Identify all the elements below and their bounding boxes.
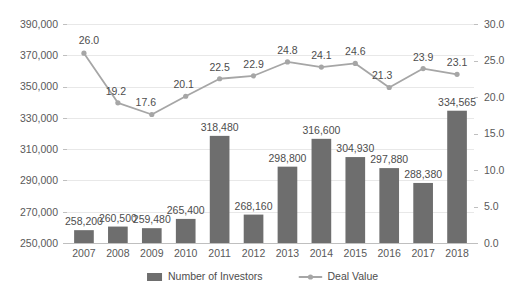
line-value-label: 26.0 [79,34,100,46]
bar [210,136,230,243]
bar-value-label: 304,930 [336,142,374,154]
bar [74,230,94,243]
line-value-label: 24.6 [345,45,366,57]
bar [413,183,433,243]
bar-value-label: 258,200 [65,215,103,227]
category-label: 2011 [208,247,231,259]
line-value-label: 20.1 [173,78,194,90]
bar-value-label: 297,880 [370,153,408,165]
line-marker [353,61,358,66]
line-marker [115,100,120,105]
category-label: 2017 [411,247,435,259]
category-label: 2008 [106,247,130,259]
legend-swatch-bar[interactable] [147,273,162,281]
line-value-label: 24.1 [311,49,332,61]
right-axis-tick-label: 15.0 [484,127,505,139]
right-axis-tick-label: 30.0 [484,18,505,30]
bar [176,219,196,243]
bar [108,227,128,243]
left-axis-tick-label: 350,000 [20,80,58,92]
bar-value-label: 334,565 [438,96,476,108]
legend-label[interactable]: Deal Value [327,270,378,282]
left-axis-tick-label: 330,000 [20,112,58,124]
line-marker [149,112,154,117]
bar [379,168,399,243]
line-marker [421,66,426,71]
category-label: 2009 [140,247,164,259]
category-label: 2018 [445,247,469,259]
right-axis-tick-label: 0.0 [484,237,499,249]
category-label: 2012 [242,247,266,259]
right-axis-tick-label: 20.0 [484,91,505,103]
line-marker [319,64,324,69]
left-axis-tick-label: 390,000 [20,18,58,30]
left-axis-tick-label: 370,000 [20,49,58,61]
legend-swatch-marker[interactable] [308,274,313,279]
category-label: 2013 [276,247,300,259]
right-axis-tick-label: 5.0 [484,200,499,212]
left-axis-tick-label: 270,000 [20,206,58,218]
line-marker [183,94,188,99]
right-axis-tick-label: 25.0 [484,54,505,66]
bar [345,157,365,243]
line-value-label: 17.6 [136,96,157,108]
bar [142,228,162,243]
bar-value-label: 260,500 [99,212,137,224]
category-label: 2014 [310,247,334,259]
bar-value-label: 268,160 [235,200,273,212]
left-axis-tick-label: 310,000 [20,143,58,155]
category-label: 2007 [72,247,96,259]
chart-canvas: 250,000270,000290,000310,000330,000350,0… [0,0,530,295]
line-marker [387,85,392,90]
bar-value-label: 259,480 [133,213,171,225]
line-value-label: 21.3 [372,69,393,81]
left-axis-tick-label: 290,000 [20,174,58,186]
bar-value-label: 298,800 [268,152,306,164]
line-marker [81,51,86,56]
left-axis-tick-label: 250,000 [20,237,58,249]
right-axis-tick-label: 10.0 [484,164,505,176]
line-value-label: 23.1 [447,56,468,68]
category-label: 2016 [378,247,402,259]
combo-chart: 250,000270,000290,000310,000330,000350,0… [0,0,530,295]
line-value-label: 23.9 [413,51,434,63]
category-label: 2015 [344,247,368,259]
legend-label[interactable]: Number of Investors [168,270,263,282]
line-value-label: 22.5 [209,61,230,73]
bar-value-label: 318,480 [201,121,239,133]
bar-value-label: 316,600 [302,124,340,136]
line-value-label: 24.8 [277,44,298,56]
line-marker [454,72,459,77]
line-value-label: 22.9 [243,58,264,70]
bar [312,139,332,243]
bar [447,111,467,243]
line-marker [285,59,290,64]
line-value-label: 19.2 [106,85,127,97]
bar [244,215,264,243]
category-label: 2010 [174,247,198,259]
bar-value-label: 288,380 [404,168,442,180]
line-marker [217,76,222,81]
bar [278,167,298,243]
bar-value-label: 265,400 [167,204,205,216]
line-marker [251,73,256,78]
